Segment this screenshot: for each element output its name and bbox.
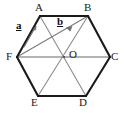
edge-EF bbox=[17, 57, 38, 96]
centre-label-o: O bbox=[69, 49, 77, 60]
vertex-label-e: E bbox=[31, 97, 38, 108]
vector-a-arrow bbox=[24, 26, 36, 47]
edge-BC bbox=[88, 16, 110, 57]
edge-CD bbox=[86, 57, 110, 96]
vertex-label-c: C bbox=[111, 51, 118, 62]
centre-point-O bbox=[63, 56, 65, 58]
hexagon-vector-diagram: A B C D E F O a b bbox=[0, 0, 126, 113]
vertex-label-f: F bbox=[6, 51, 12, 62]
vertex-label-a: A bbox=[35, 2, 43, 13]
diagonal-BE bbox=[38, 16, 88, 96]
vector-b-arrow bbox=[67, 27, 73, 32]
vertex-label-d: D bbox=[79, 97, 87, 108]
vector-label-a: a bbox=[16, 20, 22, 31]
vector-label-b: b bbox=[57, 16, 63, 27]
vertex-label-b: B bbox=[84, 2, 91, 13]
